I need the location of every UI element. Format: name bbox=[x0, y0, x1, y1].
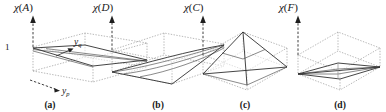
chi-axis-arrowhead-d bbox=[295, 16, 301, 24]
chi-axis-arrowhead-c bbox=[200, 16, 206, 24]
figure-svg: χ(A) 1 yq yp (a) bbox=[0, 0, 386, 112]
panel-a-axis-label: χ(A) bbox=[13, 1, 33, 14]
chi-close-paren-d: ) bbox=[294, 1, 298, 14]
panel-a-yp-axis bbox=[30, 80, 60, 93]
panel-b-axis-label: χ(D) bbox=[92, 1, 113, 14]
panel-a-vertical-axis bbox=[30, 16, 36, 48]
panel-a-yp-label: yp bbox=[61, 86, 70, 97]
panel-caption-c: (c) bbox=[240, 100, 251, 111]
chi-close-paren-b: ) bbox=[109, 1, 113, 14]
panel-d-axis-label: χ(F) bbox=[278, 1, 298, 14]
panel-b-vertical-axis bbox=[109, 16, 115, 51]
box-pillars-d bbox=[298, 32, 380, 90]
panel-caption-d: (d) bbox=[334, 100, 346, 111]
figure-container: χ(A) 1 yq yp (a) bbox=[0, 0, 386, 112]
panel-b: χ(D) (b) bbox=[92, 1, 224, 111]
chi-close-paren-a: ) bbox=[29, 1, 33, 14]
panel-caption-b: (b) bbox=[152, 100, 164, 111]
yp-subscript-a: p bbox=[65, 90, 70, 97]
panel-caption-a: (a) bbox=[44, 100, 55, 111]
tick-label-one-a: 1 bbox=[5, 42, 10, 52]
chi-axis-arrowhead-b bbox=[109, 16, 115, 24]
chi-close-paren-c: ) bbox=[200, 1, 204, 14]
panel-c-axis-label: χ(C) bbox=[183, 1, 204, 14]
yp-arrowhead-a bbox=[54, 88, 60, 93]
panel-c: χ(C) (c) bbox=[183, 1, 287, 111]
yp-leader-a bbox=[30, 80, 55, 89]
chi-axis-arrowhead-a bbox=[30, 16, 36, 24]
chi-arg-b: D bbox=[101, 1, 110, 13]
panel-a: χ(A) 1 yq yp (a) bbox=[5, 1, 147, 111]
panel-d-vertical-axis bbox=[295, 16, 301, 56]
panel-d: χ(F) (d) bbox=[278, 1, 380, 111]
panel-a-yq-label: yq bbox=[73, 37, 82, 48]
